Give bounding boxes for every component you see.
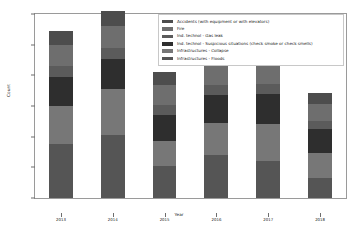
bar-segment[interactable] xyxy=(101,48,125,59)
x-axis-tick-label: 2014 xyxy=(93,217,133,222)
legend-swatch-icon xyxy=(162,42,173,46)
y-axis-tick-mark xyxy=(31,198,35,199)
x-axis-tick-label: 2015 xyxy=(145,217,185,222)
bar-segment[interactable] xyxy=(49,45,73,66)
y-axis-label: Count xyxy=(6,61,11,121)
bar-segment[interactable] xyxy=(101,26,125,47)
bar-segment[interactable] xyxy=(308,153,332,179)
bar-segment[interactable] xyxy=(153,72,177,85)
bar-segment[interactable] xyxy=(256,124,280,161)
legend-item[interactable]: Fire xyxy=(162,25,339,32)
bar-segment[interactable] xyxy=(49,106,73,144)
legend-item[interactable]: Accidents (with equipment or with elevat… xyxy=(162,18,339,25)
stacked-bar-chart-figure: 050010001500200025003000 201320142015201… xyxy=(0,0,358,226)
bar-segment[interactable] xyxy=(101,59,125,89)
bar-segment[interactable] xyxy=(256,84,280,95)
legend-item-label: Fire xyxy=(177,27,184,31)
bar-segment[interactable] xyxy=(101,11,125,26)
bar-segment[interactable] xyxy=(153,166,177,199)
bar-segment[interactable] xyxy=(204,123,228,155)
bar-segment[interactable] xyxy=(256,94,280,123)
bar-2013[interactable] xyxy=(49,14,73,198)
bar-segment[interactable] xyxy=(153,115,177,141)
bar-segment[interactable] xyxy=(101,89,125,136)
bar-segment[interactable] xyxy=(204,85,228,95)
x-axis-tick-label: 2017 xyxy=(248,217,288,222)
legend-item[interactable]: Infrastructures - Floods xyxy=(162,55,339,62)
legend-swatch-icon xyxy=(162,49,173,53)
legend-swatch-icon xyxy=(162,20,173,24)
legend-swatch-icon xyxy=(162,27,173,31)
x-axis-tick-label: 2013 xyxy=(41,217,81,222)
bar-segment[interactable] xyxy=(308,104,332,121)
y-axis-tick-mark xyxy=(31,14,35,15)
bar-segment[interactable] xyxy=(101,135,125,198)
bar-segment[interactable] xyxy=(204,65,228,85)
y-axis-tick-mark xyxy=(31,136,35,137)
x-axis-tick-label: 2018 xyxy=(300,217,340,222)
legend-item-label: Ind. technol - Suspicious situations (ch… xyxy=(177,42,313,46)
x-axis-tick-label: 2016 xyxy=(196,217,236,222)
legend-item-label: Infrastructures - Collapse xyxy=(177,49,229,53)
bar-segment[interactable] xyxy=(308,93,332,105)
legend-item-label: Infrastructures - Floods xyxy=(177,57,224,61)
legend-item[interactable]: Infrastructures - Collapse xyxy=(162,48,339,55)
bar-segment[interactable] xyxy=(308,121,332,130)
legend-item[interactable]: Ind. technol - Gas leak xyxy=(162,33,339,40)
y-axis-tick-mark xyxy=(31,44,35,45)
y-axis-tick-mark xyxy=(31,167,35,168)
bar-segment[interactable] xyxy=(153,105,177,115)
bar-segment[interactable] xyxy=(153,141,177,166)
bar-segment[interactable] xyxy=(308,178,332,198)
bar-segment[interactable] xyxy=(204,95,228,123)
bar-segment[interactable] xyxy=(204,155,228,198)
legend-item-label: Ind. technol - Gas leak xyxy=(177,34,223,38)
y-axis-tick-mark xyxy=(31,75,35,76)
chart-legend: Accidents (with equipment or with elevat… xyxy=(158,14,344,66)
bar-segment[interactable] xyxy=(49,77,73,106)
bar-segment[interactable] xyxy=(49,144,73,198)
legend-item-label: Accidents (with equipment or with elevat… xyxy=(177,20,269,24)
bar-segment[interactable] xyxy=(256,161,280,198)
bar-segment[interactable] xyxy=(308,129,332,152)
x-axis-label: Year xyxy=(0,212,358,217)
y-axis-tick-mark xyxy=(31,106,35,107)
legend-item[interactable]: Ind. technol - Suspicious situations (ch… xyxy=(162,40,339,47)
bar-segment[interactable] xyxy=(49,66,73,77)
legend-swatch-icon xyxy=(162,35,173,39)
bar-segment[interactable] xyxy=(153,85,177,104)
legend-swatch-icon xyxy=(162,57,173,61)
bar-segment[interactable] xyxy=(49,31,73,45)
bar-2014[interactable] xyxy=(101,14,125,198)
